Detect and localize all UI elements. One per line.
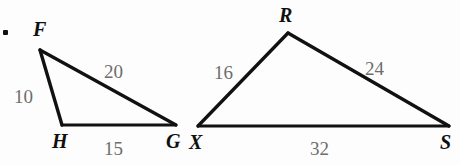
- vertex-label-x: X: [188, 131, 203, 153]
- geometry-canvas: F H G 10 20 15 R X S 16 24 32: [0, 0, 460, 165]
- edge-r-s: [288, 33, 449, 126]
- vertex-label-h: H: [51, 130, 69, 152]
- side-length-fg: 20: [104, 61, 123, 82]
- side-length-fh: 10: [14, 86, 33, 107]
- side-length-xr: 16: [214, 62, 233, 83]
- list-bullet-icon: [3, 30, 8, 35]
- side-length-xs: 32: [310, 138, 329, 159]
- triangle-fhg: F H G 10 20 15: [14, 18, 181, 159]
- edge-x-r: [198, 33, 288, 126]
- vertex-label-f: F: [32, 18, 47, 40]
- vertex-label-s: S: [440, 131, 451, 153]
- side-length-rs: 24: [365, 58, 385, 79]
- side-length-hg: 15: [104, 138, 123, 159]
- vertex-label-g: G: [166, 130, 181, 152]
- triangle-rxs: R X S 16 24 32: [188, 4, 451, 159]
- vertex-label-r: R: [278, 4, 292, 26]
- geometry-figure: F H G 10 20 15 R X S 16 24 32: [0, 0, 460, 165]
